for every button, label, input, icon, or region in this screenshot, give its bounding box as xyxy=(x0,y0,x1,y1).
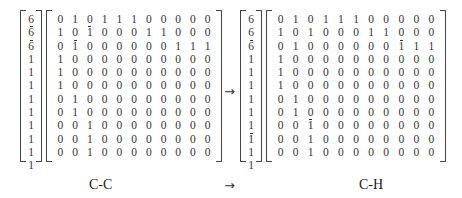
matrix-entry: 0 xyxy=(171,106,186,119)
matrix-entry: 1 xyxy=(273,26,288,39)
vector-entry: 1 xyxy=(20,106,42,119)
matrix-entry: 0 xyxy=(68,79,83,92)
matrix-entry: 0 xyxy=(156,146,171,159)
vector-entry: 6 xyxy=(240,40,262,53)
matrix-entry: 0 xyxy=(364,53,379,66)
matrix-entry: 1 xyxy=(127,13,142,26)
matrix-entry: 0 xyxy=(68,133,83,146)
vector-row: 1 xyxy=(20,106,42,119)
label-cc: C-C xyxy=(89,177,112,193)
matrix-entries: 0101110000010100011000010000001111000000… xyxy=(53,13,215,159)
matrix-row: 01011100000 xyxy=(273,13,439,26)
matrix-entry: 0 xyxy=(141,53,156,66)
matrix-entry: 0 xyxy=(186,133,201,146)
matrix-entry: 0 xyxy=(379,106,394,119)
matrix-entry: 0 xyxy=(394,119,409,132)
vector-entry: 1 xyxy=(240,66,262,79)
matrix-entry: 1 xyxy=(82,146,97,159)
matrix-entry: 0 xyxy=(379,66,394,79)
matrix-entry: 0 xyxy=(303,13,318,26)
matrix-entry: 0 xyxy=(318,40,333,53)
matrix-entry: 0 xyxy=(53,40,68,53)
matrix-row: 00100000000 xyxy=(273,133,439,146)
matrix-row: 01000000111 xyxy=(273,40,439,53)
matrix-entry: 0 xyxy=(288,79,303,92)
matrix-entry: 0 xyxy=(273,13,288,26)
matrix-entry: 0 xyxy=(364,93,379,106)
matrix-entry: 0 xyxy=(97,146,112,159)
matrix-entry: 0 xyxy=(288,53,303,66)
matrix-entry: 0 xyxy=(156,93,171,106)
matrix-row: 01000000000 xyxy=(53,93,215,106)
matrix-entry: 0 xyxy=(82,79,97,92)
matrix-entry: 0 xyxy=(333,66,348,79)
matrix-entry: 0 xyxy=(97,93,112,106)
matrix-entry: 0 xyxy=(333,93,348,106)
matrix-row: 00100000000 xyxy=(53,133,215,146)
matrix-entry: 0 xyxy=(171,79,186,92)
matrix-entry: 0 xyxy=(409,93,424,106)
vector-entry: 1 xyxy=(240,53,262,66)
matrix-entry: 0 xyxy=(424,146,439,159)
matrix-entry: 0 xyxy=(409,79,424,92)
matrix-entry: 0 xyxy=(318,106,333,119)
vector-entries: 666111111111 xyxy=(20,13,42,173)
matrix-entry: 0 xyxy=(333,106,348,119)
matrix-entry: 0 xyxy=(171,53,186,66)
matrix-entry: 0 xyxy=(82,93,97,106)
vector-entry: 6 xyxy=(20,26,42,39)
vector-row: 6 xyxy=(20,26,42,39)
vector-row: 1 xyxy=(240,133,262,146)
matrix-entry: 0 xyxy=(112,26,127,39)
matrix-entry: 0 xyxy=(112,106,127,119)
matrix-entry: 0 xyxy=(348,26,363,39)
matrix-row: 01000000000 xyxy=(273,106,439,119)
matrix-entry: 0 xyxy=(348,53,363,66)
matrix-entry: 0 xyxy=(186,53,201,66)
matrix-row: 10000000000 xyxy=(273,79,439,92)
matrix-entry: 1 xyxy=(82,133,97,146)
matrix-entry: 0 xyxy=(409,146,424,159)
matrix-entry: 0 xyxy=(394,66,409,79)
matrix-entry: 0 xyxy=(171,93,186,106)
matrix-entry: 1 xyxy=(288,106,303,119)
matrix-entry: 0 xyxy=(273,133,288,146)
matrix-entry: 0 xyxy=(112,53,127,66)
matrix-entry: 0 xyxy=(394,93,409,106)
vector-entry: 1 xyxy=(20,79,42,92)
matrix-entry: 0 xyxy=(318,133,333,146)
matrix-entry: 0 xyxy=(303,106,318,119)
matrix-entry: 1 xyxy=(53,79,68,92)
matrix-entry: 0 xyxy=(53,133,68,146)
matrix-entry: 0 xyxy=(424,53,439,66)
vector-entry: 6 xyxy=(240,13,262,26)
matrix-entry: 0 xyxy=(141,133,156,146)
vector-entry: 1 xyxy=(240,146,262,159)
matrix-entry: 1 xyxy=(303,26,318,39)
matrix-entry: 0 xyxy=(127,66,142,79)
matrix-entry: 0 xyxy=(318,66,333,79)
matrix-row: 00100000000 xyxy=(273,146,439,159)
matrix-entry: 0 xyxy=(68,53,83,66)
matrix-entry: 0 xyxy=(318,26,333,39)
matrix-entry: 0 xyxy=(141,40,156,53)
vector-row: 6 xyxy=(240,13,262,26)
matrix-entry: 0 xyxy=(424,106,439,119)
matrix-entry: 0 xyxy=(112,66,127,79)
matrix-entry: 1 xyxy=(141,26,156,39)
matrix-entry: 1 xyxy=(379,26,394,39)
matrix-row: 01011100000 xyxy=(53,13,215,26)
matrix-entry: 0 xyxy=(82,13,97,26)
matrix-entry: 0 xyxy=(82,106,97,119)
matrix-entry: 0 xyxy=(409,106,424,119)
matrix-entry: 1 xyxy=(97,13,112,26)
matrix-entry: 0 xyxy=(394,13,409,26)
left-vector: 666111111111 xyxy=(20,10,42,162)
matrix-entry: 0 xyxy=(409,119,424,132)
matrix-entry: 0 xyxy=(333,40,348,53)
matrix-entry: 1 xyxy=(53,26,68,39)
matrix-entry: 0 xyxy=(141,79,156,92)
matrix-entry: 0 xyxy=(303,79,318,92)
matrix-entry: 1 xyxy=(53,66,68,79)
matrix-entry: 0 xyxy=(364,40,379,53)
